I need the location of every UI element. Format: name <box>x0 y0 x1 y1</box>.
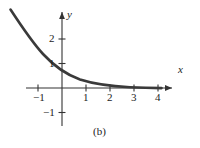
y-tick-label-1: 1 <box>49 58 55 69</box>
figure-container: −1 1 2 3 4 2 1 −1 y x (b) <box>0 0 200 148</box>
y-axis-label: y <box>67 9 72 20</box>
exponential-decay-curve <box>11 10 162 89</box>
y-axis-arrowhead <box>59 12 65 19</box>
x-tick-label-3: 3 <box>131 92 137 103</box>
x-tick-label-neg1: −1 <box>33 92 45 103</box>
x-axis-arrowhead <box>165 85 172 91</box>
x-axis-label: x <box>178 64 183 75</box>
y-tick-label-neg1: −1 <box>43 107 55 118</box>
x-tick-label-4: 4 <box>155 92 161 103</box>
x-tick-label-2: 2 <box>107 92 113 103</box>
x-tick-label-1: 1 <box>83 92 89 103</box>
y-tick-label-2: 2 <box>49 33 55 44</box>
figure-caption: (b) <box>93 126 106 137</box>
